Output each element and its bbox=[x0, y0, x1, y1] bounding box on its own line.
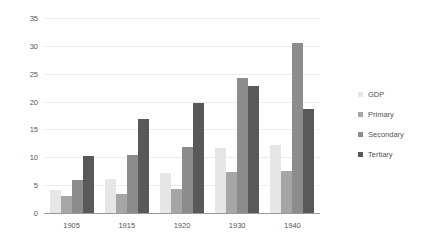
bar-secondary bbox=[182, 147, 193, 213]
bar-primary bbox=[61, 196, 72, 213]
y-tick-label: 20 bbox=[30, 97, 38, 106]
bar-tertiary bbox=[138, 119, 149, 213]
legend-item-primary[interactable]: Primary bbox=[358, 106, 422, 122]
bar-primary bbox=[226, 172, 237, 213]
bar-group: 1915 bbox=[99, 18, 154, 213]
y-tick-label: 15 bbox=[30, 125, 38, 134]
bar-gdp bbox=[105, 179, 116, 213]
legend-swatch-icon bbox=[358, 152, 363, 157]
legend-label: Tertiary bbox=[368, 150, 393, 159]
bar-secondary bbox=[72, 180, 83, 213]
bar-tertiary bbox=[248, 86, 259, 213]
y-tick-label: 30 bbox=[30, 41, 38, 50]
plot-area: 05101520253035 19051915192019301940 bbox=[44, 18, 320, 214]
legend-item-tertiary[interactable]: Tertiary bbox=[358, 146, 422, 162]
x-tick-label: 1940 bbox=[284, 221, 301, 230]
legend: GDPPrimarySecondaryTertiary bbox=[358, 86, 422, 166]
bar-secondary bbox=[127, 155, 138, 214]
bar-primary bbox=[116, 194, 127, 213]
bar-gdp bbox=[270, 145, 281, 213]
bar-tertiary bbox=[193, 103, 204, 213]
x-tick-label: 1905 bbox=[63, 221, 80, 230]
y-tick-label: 25 bbox=[30, 69, 38, 78]
x-tick-label: 1915 bbox=[118, 221, 135, 230]
y-tick-label: 0 bbox=[34, 209, 38, 218]
y-tick-label: 35 bbox=[30, 14, 38, 23]
legend-label: GDP bbox=[368, 90, 384, 99]
bar-secondary bbox=[292, 43, 303, 213]
bar-group: 1930 bbox=[210, 18, 265, 213]
bar-groups: 19051915192019301940 bbox=[44, 18, 320, 214]
bar-group: 1920 bbox=[154, 18, 209, 213]
bar-gdp bbox=[215, 148, 226, 213]
bar-chart: GDP per worker in 1,000 Yen 051015202530… bbox=[0, 0, 424, 248]
x-tick-label: 1920 bbox=[174, 221, 191, 230]
legend-swatch-icon bbox=[358, 112, 363, 117]
bar-gdp bbox=[50, 190, 61, 213]
bar-group: 1940 bbox=[265, 18, 320, 213]
legend-label: Primary bbox=[368, 110, 394, 119]
y-tick-label: 10 bbox=[30, 153, 38, 162]
y-tick-label: 5 bbox=[34, 181, 38, 190]
x-axis-line bbox=[44, 213, 320, 214]
bar-tertiary bbox=[303, 109, 314, 213]
legend-item-secondary[interactable]: Secondary bbox=[358, 126, 422, 142]
bar-primary bbox=[281, 171, 292, 213]
bar-group: 1905 bbox=[44, 18, 99, 213]
legend-label: Secondary bbox=[368, 130, 404, 139]
bar-primary bbox=[171, 189, 182, 213]
legend-swatch-icon bbox=[358, 92, 363, 97]
bar-tertiary bbox=[83, 156, 94, 213]
legend-swatch-icon bbox=[358, 132, 363, 137]
legend-item-gdp[interactable]: GDP bbox=[358, 86, 422, 102]
bar-secondary bbox=[237, 78, 248, 213]
bar-gdp bbox=[160, 173, 171, 213]
x-tick-label: 1930 bbox=[229, 221, 246, 230]
